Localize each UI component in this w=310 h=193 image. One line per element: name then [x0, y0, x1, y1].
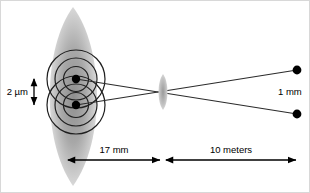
- object-separation-label: 2 µm: [7, 86, 28, 97]
- source-point-lower: [72, 101, 80, 109]
- ray-lower-source-to-upper-image: [76, 70, 297, 105]
- image-separation-label: 1 mm: [278, 86, 302, 97]
- far-distance-label: 10 meters: [210, 144, 252, 155]
- source-point-upper: [72, 75, 80, 83]
- figure-border: [1, 1, 310, 193]
- ray-upper-source-to-lower-image: [76, 79, 297, 114]
- near-distance-label: 17 mm: [99, 144, 128, 155]
- figure-canvas: 2 µm 1 mm 17 mm 10 meters: [0, 0, 310, 193]
- objective-lens-shape: [159, 74, 168, 110]
- optics-diagram: 2 µm 1 mm 17 mm 10 meters: [0, 0, 310, 193]
- image-point-lower: [293, 110, 302, 119]
- image-point-upper: [293, 66, 302, 75]
